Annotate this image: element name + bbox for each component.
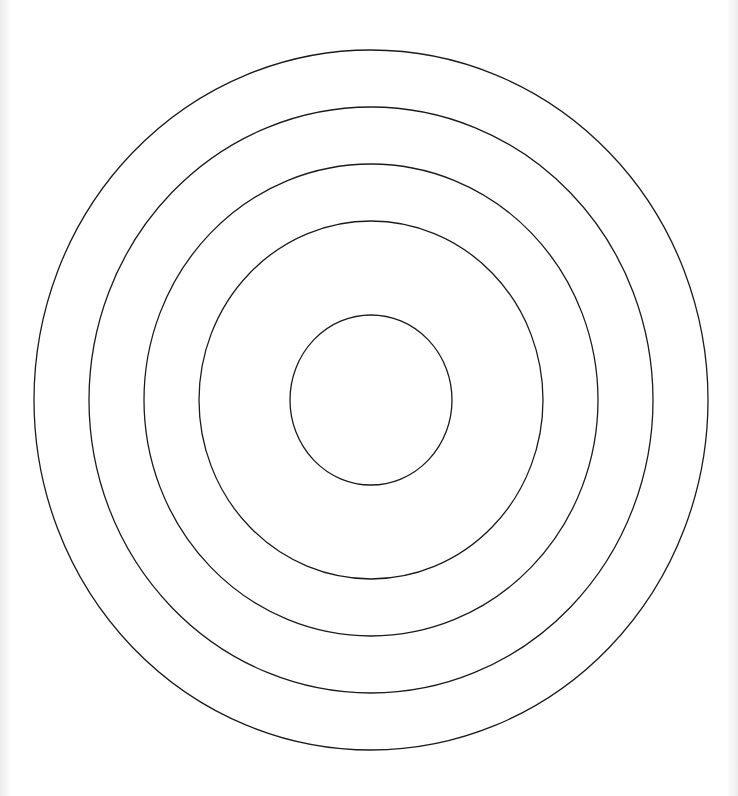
- ring-3: [144, 164, 598, 636]
- rings-group: [34, 50, 708, 750]
- ring-1: [34, 50, 708, 750]
- ring-2: [89, 107, 653, 693]
- ring-5: [290, 315, 452, 485]
- ring-4: [199, 221, 543, 579]
- concentric-rings-diagram: [0, 0, 738, 796]
